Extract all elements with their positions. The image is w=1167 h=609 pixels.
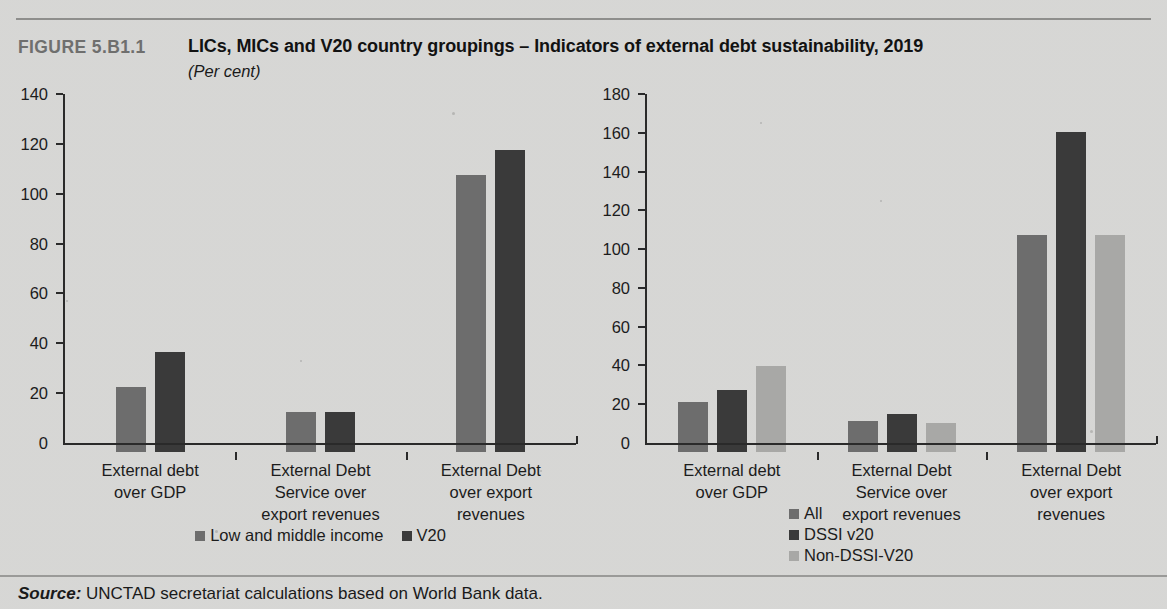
category-label-line: External Debt: [239, 460, 401, 482]
scan-speckle: [452, 112, 455, 115]
chart-right-x-axis-line: [645, 443, 1156, 445]
y-axis-tick-label: 100: [20, 184, 48, 203]
y-axis-tick-mark: [56, 143, 63, 145]
chart-left-category-labels: External debtover GDPExternal DebtServic…: [65, 460, 576, 526]
legend-item[interactable]: V20: [402, 526, 446, 545]
legend-swatch-icon: [789, 551, 799, 561]
legend-label: V20: [417, 526, 446, 545]
legend-swatch-icon: [789, 509, 799, 519]
y-axis-tick-label: 140: [20, 85, 48, 104]
category-label-line: over GDP: [651, 482, 813, 504]
figure-title-block: LICs, MICs and V20 country groupings – I…: [188, 36, 1148, 81]
category-label: External Debtover exportrevenues: [986, 460, 1156, 526]
source-text: UNCTAD secretariat calculations based on…: [86, 584, 543, 603]
category-label-line: over GDP: [69, 482, 231, 504]
bar[interactable]: [887, 414, 917, 452]
category-label-line: revenues: [990, 504, 1152, 526]
y-axis-tick-label: 80: [30, 234, 48, 253]
bar[interactable]: [495, 150, 525, 452]
bar-group: [647, 103, 817, 452]
y-axis-tick-label: 180: [602, 85, 630, 104]
legend-item[interactable]: Low and middle income: [195, 526, 383, 545]
x-axis-end-tick: [1156, 436, 1158, 444]
category-label-line: Service over: [239, 482, 401, 504]
chart-left-y-axis: 020406080100120140: [4, 86, 56, 452]
scan-speckle: [300, 360, 302, 362]
figure-subtitle: (Per cent): [188, 61, 1148, 82]
scan-speckle: [215, 530, 218, 533]
bar-group: [406, 103, 576, 452]
category-label-line: External Debt: [410, 460, 572, 482]
category-label-line: External Debt: [821, 460, 983, 482]
source-note: Source: UNCTAD secretariat calculations …: [18, 584, 543, 604]
bar-group: [986, 103, 1156, 452]
y-axis-tick-mark: [56, 392, 63, 394]
legend-item[interactable]: DSSI v20: [789, 525, 913, 544]
legend-item[interactable]: All: [789, 504, 913, 523]
x-axis-end-tick: [576, 436, 578, 444]
bar[interactable]: [286, 412, 316, 452]
scan-speckle: [1090, 430, 1093, 433]
category-label-line: Service over: [821, 482, 983, 504]
y-axis-tick-label: 80: [612, 278, 630, 297]
bar[interactable]: [325, 412, 355, 452]
scan-speckle: [880, 200, 882, 202]
y-axis-tick-mark: [638, 132, 645, 134]
legend-label: DSSI v20: [804, 525, 874, 544]
y-axis-tick-label: 0: [39, 434, 48, 453]
legend-label: All: [804, 504, 822, 523]
scan-speckle: [66, 300, 68, 302]
chart-left-plot-area: 020406080100120140: [4, 86, 584, 452]
y-axis-tick-label: 40: [612, 356, 630, 375]
y-axis-tick-label: 20: [612, 395, 630, 414]
legend-swatch-icon: [195, 531, 205, 541]
figure-number: FIGURE 5.B1.1: [18, 36, 188, 58]
category-label-line: export revenues: [239, 504, 401, 526]
y-axis-tick-label: 140: [602, 162, 630, 181]
scan-speckle: [540, 470, 542, 472]
category-label-line: over export: [990, 482, 1152, 504]
y-axis-tick-mark: [638, 248, 645, 250]
y-axis-tick-label: 0: [621, 434, 630, 453]
y-axis-tick-label: 160: [602, 123, 630, 142]
footer-divider: [0, 575, 1167, 577]
bar[interactable]: [1056, 132, 1086, 452]
figure-title: LICs, MICs and V20 country groupings – I…: [188, 36, 1148, 58]
bar-group: [65, 103, 235, 452]
category-label-line: over export: [410, 482, 572, 504]
chart-left-legend: Low and middle incomeV20: [65, 526, 576, 545]
chart-left-x-axis-line: [63, 443, 576, 445]
bar[interactable]: [155, 352, 185, 452]
bar[interactable]: [848, 421, 878, 452]
category-label-line: External debt: [651, 460, 813, 482]
y-axis-tick-mark: [638, 209, 645, 211]
y-axis-tick-mark: [56, 193, 63, 195]
bar[interactable]: [456, 175, 486, 452]
bar[interactable]: [1095, 235, 1125, 452]
y-axis-tick-mark: [56, 93, 63, 95]
header-divider: [16, 18, 1151, 20]
bar[interactable]: [756, 366, 786, 452]
y-axis-tick-label: 120: [602, 201, 630, 220]
chart-right-bar-groups: [647, 103, 1156, 452]
chart-right-y-axis: 020406080100120140160180: [586, 86, 638, 452]
y-axis-tick-mark: [638, 326, 645, 328]
legend-swatch-icon: [402, 531, 412, 541]
y-axis-tick-mark: [56, 342, 63, 344]
category-label-line: External Debt: [990, 460, 1152, 482]
chart-right: 020406080100120140160180 External debtov…: [586, 86, 1164, 452]
x-axis-group-tick: [817, 452, 819, 460]
category-label: External debtover GDP: [65, 460, 235, 526]
bar[interactable]: [926, 423, 956, 452]
chart-left: 020406080100120140 External debtover GDP…: [4, 86, 584, 452]
bar-group: [235, 103, 405, 452]
chart-right-legend: AllDSSI v20Non-DSSI-V20: [789, 504, 913, 565]
y-axis-tick-mark: [638, 364, 645, 366]
chart-left-bar-groups: [65, 103, 576, 452]
legend-item[interactable]: Non-DSSI-V20: [789, 546, 913, 565]
bar[interactable]: [1017, 235, 1047, 452]
category-label: External Debtover exportrevenues: [406, 460, 576, 526]
legend-label: Non-DSSI-V20: [804, 546, 913, 565]
y-axis-tick-label: 40: [30, 334, 48, 353]
category-label: External DebtService overexport revenues: [235, 460, 405, 526]
